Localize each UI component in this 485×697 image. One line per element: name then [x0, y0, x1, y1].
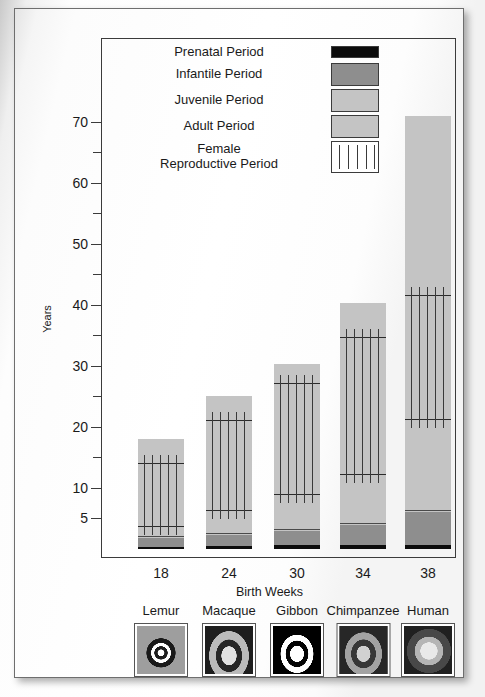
bar-macaque — [206, 396, 252, 549]
bar-chimpanzee — [340, 303, 386, 549]
species-chimpanzee: Chimpanzee — [327, 603, 400, 677]
segment-divider — [274, 529, 320, 530]
y-axis-tick — [91, 183, 101, 184]
y-axis-tick — [91, 488, 101, 489]
y-axis-tick-label: 5 — [80, 510, 88, 526]
y-axis-tick-label: 50 — [72, 236, 88, 252]
species-gibbon: Gibbon — [270, 603, 324, 677]
legend-item-infantile: Infantile Period — [119, 63, 379, 86]
species-label: Lemur — [134, 603, 188, 618]
bar-segment-prenatal — [274, 545, 320, 549]
segment-divider — [138, 536, 184, 537]
human-photo — [401, 623, 455, 677]
juvenile-swatch-icon — [331, 89, 379, 112]
bar-segment-infantile — [340, 525, 386, 545]
segment-divider — [340, 474, 386, 475]
bar-segment-adult — [274, 364, 320, 496]
x-axis-tick-label: 30 — [289, 565, 305, 581]
adult-swatch-icon — [331, 115, 379, 138]
bar-segment-prenatal — [138, 547, 184, 549]
bar-segment-prenatal — [340, 545, 386, 549]
legend-label-prenatal: Prenatal Period — [119, 45, 331, 60]
prenatal-swatch-icon — [331, 46, 379, 58]
species-macaque: Macaque — [202, 603, 256, 677]
macaque-photo — [202, 623, 256, 677]
segment-divider — [206, 533, 252, 534]
segment-divider — [274, 494, 320, 495]
bar-segment-prenatal — [206, 546, 252, 549]
gibbon-photo — [270, 623, 324, 677]
figure-canvas: Years 510203040506070 Birth Weeks Prenat… — [0, 0, 485, 697]
y-axis-tick — [93, 396, 101, 397]
y-axis-tick — [91, 244, 101, 245]
bar-segment-juvenile — [206, 512, 252, 535]
legend-label-female-reproductive: Female Reproductive Period — [119, 142, 331, 171]
legend-item-adult: Adult Period — [119, 115, 379, 138]
bar-segment-juvenile — [405, 421, 451, 513]
lemur-photo — [134, 623, 188, 677]
segment-divider — [405, 419, 451, 420]
species-label: Chimpanzee — [327, 603, 400, 618]
segment-divider — [138, 526, 184, 527]
figure-page: Years 510203040506070 Birth Weeks Prenat… — [14, 8, 464, 678]
bar-segment-prenatal — [405, 545, 451, 549]
chimpanzee-photo — [336, 623, 390, 677]
bar-segment-juvenile — [340, 476, 386, 525]
legend-label-adult: Adult Period — [119, 119, 331, 134]
species-human: Human — [401, 603, 455, 677]
bar-segment-adult — [206, 396, 252, 512]
y-axis-tick — [93, 335, 101, 336]
bar-segment-adult — [138, 439, 184, 528]
y-axis-tick — [91, 305, 101, 306]
legend-item-juvenile: Juvenile Period — [119, 89, 379, 112]
x-axis-title: Birth Weeks — [15, 585, 485, 599]
bar-segment-infantile — [405, 512, 451, 544]
y-axis-tick — [91, 122, 101, 123]
legend-item-prenatal: Prenatal Period — [119, 45, 379, 60]
species-label: Macaque — [202, 603, 256, 618]
x-axis-tick-label: 34 — [355, 565, 371, 581]
segment-divider — [340, 523, 386, 524]
y-axis-tick — [93, 213, 101, 214]
bar-segment-infantile — [206, 535, 252, 546]
segment-divider — [206, 510, 252, 511]
bar-segment-adult — [340, 303, 386, 476]
bar-gibbon — [274, 364, 320, 549]
y-axis-title: Years — [41, 305, 53, 333]
species-label: Gibbon — [270, 603, 324, 618]
legend-label-female-reproductive-line2: Reproductive Period — [119, 157, 319, 172]
bar-human — [405, 116, 451, 549]
y-axis-tick-label: 60 — [72, 175, 88, 191]
segment-divider — [405, 510, 451, 511]
female-reproductive-swatch-icon — [331, 141, 379, 173]
infantile-swatch-icon — [331, 63, 379, 86]
bar-segment-infantile — [274, 531, 320, 546]
y-axis-tick-label: 70 — [72, 114, 88, 130]
y-axis-tick — [91, 366, 101, 367]
legend: Prenatal Period Infantile Period Juvenil… — [119, 45, 379, 176]
species-label: Human — [401, 603, 455, 618]
x-axis-tick-label: 38 — [420, 565, 436, 581]
y-axis-tick — [93, 457, 101, 458]
legend-label-juvenile: Juvenile Period — [119, 93, 331, 108]
y-axis-tick-label: 10 — [72, 480, 88, 496]
species-lemur: Lemur — [134, 603, 188, 677]
legend-label-infantile: Infantile Period — [119, 67, 331, 82]
legend-label-female-reproductive-line1: Female — [119, 142, 319, 157]
y-axis-tick-label: 40 — [72, 297, 88, 313]
x-axis-title-text: Birth Weeks — [236, 585, 303, 599]
bar-segment-juvenile — [274, 496, 320, 531]
bar-segment-adult — [405, 116, 451, 421]
y-axis-tick-label: 30 — [72, 358, 88, 374]
legend-item-female-reproductive: Female Reproductive Period — [119, 141, 379, 173]
y-axis-tick-label: 20 — [72, 419, 88, 435]
bar-segment-infantile — [138, 538, 184, 547]
bar-lemur — [138, 439, 184, 549]
y-axis-tick — [93, 274, 101, 275]
y-axis-tick — [93, 152, 101, 153]
x-axis-tick-label: 24 — [221, 565, 237, 581]
y-axis-tick — [91, 518, 101, 519]
x-axis-tick-label: 18 — [153, 565, 169, 581]
y-axis-tick — [91, 427, 101, 428]
